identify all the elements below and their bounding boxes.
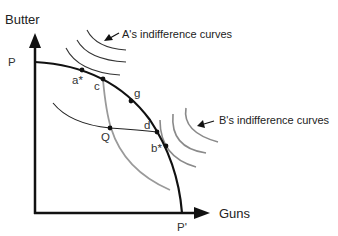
b-star-label: b* (151, 143, 162, 155)
y-axis-arrow-icon (29, 33, 41, 48)
point-a-star (80, 68, 85, 73)
p-prime-label: P' (177, 222, 187, 234)
q-label: Q (101, 132, 110, 144)
x-axis-arrow-icon (194, 207, 210, 219)
p-label: P (8, 57, 16, 69)
point-b-star (164, 144, 169, 149)
d-label: d (144, 120, 150, 132)
a-curves-annotation: A's indifference curves (122, 29, 232, 40)
c-label: c (94, 81, 100, 93)
a-arrow-line (110, 33, 119, 38)
b-arrow-icon (197, 120, 205, 128)
b-arrow-line (204, 121, 214, 124)
point-c (101, 77, 106, 82)
point-g (129, 99, 134, 104)
points (80, 68, 169, 149)
b-curves-annotation: B's indifference curves (219, 115, 329, 126)
point-q (108, 126, 113, 131)
q-indifference-curve (53, 103, 157, 132)
point-d (155, 130, 160, 135)
a-star-label: a* (72, 75, 83, 87)
y-axis-label: Butter (5, 13, 40, 26)
g-label: g (134, 88, 140, 100)
x-axis-label: Guns (219, 207, 250, 220)
